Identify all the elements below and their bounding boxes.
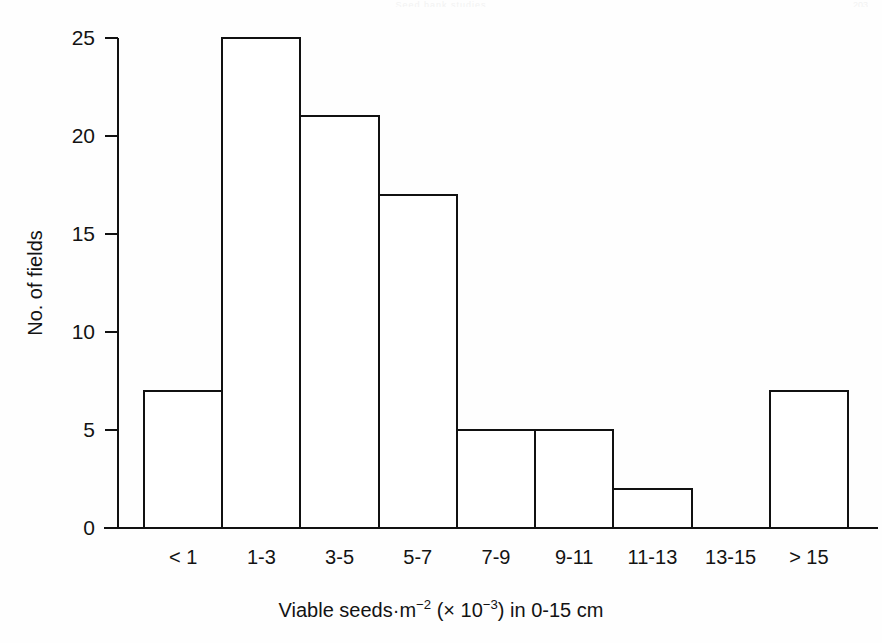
x-axis-tick-label: 7-9 [457, 546, 535, 568]
x-axis-tick-label: 1-3 [222, 546, 300, 568]
bar[interactable] [770, 391, 848, 528]
bar[interactable] [144, 391, 222, 528]
y-axis-tick-label: 20 [51, 125, 95, 146]
x-axis-tick-label: 5-7 [379, 546, 457, 568]
bar[interactable] [379, 195, 457, 528]
bars [144, 38, 848, 528]
histogram-figure: Seed bank studies 203 0510152025 No. of … [0, 0, 882, 643]
x-axis-tick-label: 3-5 [300, 546, 378, 568]
y-axis-tick-label: 15 [51, 223, 95, 244]
x-axis-title: Viable seeds·m−2 (× 10−3) in 0-15 cm [0, 598, 882, 622]
y-axis-tick-label: 5 [51, 419, 95, 440]
y-axis-title: No. of fields [25, 230, 45, 336]
y-axis-tick-label: 25 [51, 27, 95, 48]
x-axis-tick-label: < 1 [144, 546, 222, 568]
x-axis-title-tail: ) in 0-15 cm [498, 599, 604, 621]
x-axis-tick-label: 13-15 [692, 546, 770, 568]
bar[interactable] [613, 489, 691, 528]
x-axis-tick-label: 11-13 [613, 546, 691, 568]
x-axis-title-exponent-2: −3 [483, 597, 498, 612]
bar[interactable] [300, 116, 378, 528]
x-axis-title-lead: Viable seeds·m [279, 599, 416, 621]
y-axis-tick-label: 0 [51, 517, 95, 538]
x-axis-title-exponent-1: −2 [416, 597, 431, 612]
bar[interactable] [222, 38, 300, 528]
y-axis-tick-label: 10 [51, 321, 95, 342]
x-axis-tick-label: 9-11 [535, 546, 613, 568]
x-axis-title-mid: (× 10 [431, 599, 483, 621]
bar[interactable] [457, 430, 535, 528]
x-axis-tick-label: > 15 [770, 546, 848, 568]
y-axis-ticks [105, 38, 118, 528]
bar[interactable] [535, 430, 613, 528]
